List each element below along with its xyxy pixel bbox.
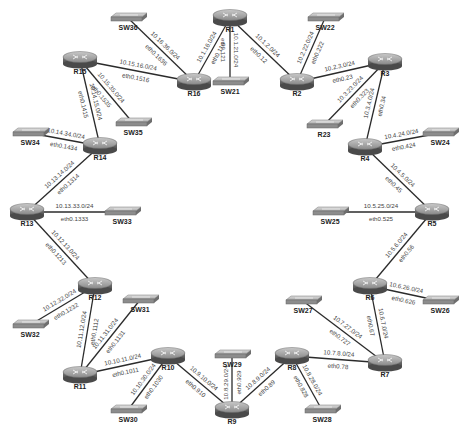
node-sw29[interactable]: SW29 bbox=[215, 350, 251, 368]
interface-label: eth0.929 bbox=[235, 370, 242, 395]
node-label: SW25 bbox=[320, 218, 339, 225]
switch-icon bbox=[13, 128, 49, 136]
router-icon bbox=[10, 204, 44, 221]
switch-icon bbox=[213, 77, 249, 85]
link-label-group: 10.12.13.0/24eth0.1213 bbox=[44, 228, 81, 266]
node-label: R1 bbox=[226, 26, 235, 33]
node-r16[interactable]: R16 bbox=[177, 74, 211, 98]
router-icon bbox=[415, 204, 449, 221]
node-label: SW34 bbox=[20, 139, 39, 146]
router-icon bbox=[213, 10, 247, 27]
subnet-label: 10.14.34.0/24 bbox=[47, 126, 86, 140]
link-label-group: 10.8.9.0/24eth0.89 bbox=[244, 365, 277, 398]
node-sw36[interactable]: SW36 bbox=[111, 13, 147, 31]
switch-icon bbox=[116, 118, 152, 126]
router-icon bbox=[368, 355, 402, 372]
switch-icon bbox=[111, 405, 147, 413]
node-sw34[interactable]: SW34 bbox=[13, 128, 49, 146]
subnet-label: 10.13.33.0/24 bbox=[56, 202, 94, 209]
switch-icon bbox=[423, 296, 459, 304]
node-label: R8 bbox=[288, 364, 297, 371]
node-r10[interactable]: R10 bbox=[151, 348, 185, 372]
node-label: R2 bbox=[293, 90, 302, 97]
node-r15[interactable]: R15 bbox=[63, 52, 97, 76]
node-r23[interactable]: R23 bbox=[307, 120, 343, 138]
link-label-group: 10.8.28.0/24eth0.828 bbox=[292, 363, 324, 399]
node-label: R16 bbox=[188, 90, 201, 97]
link-label-group: 10.4.5.0/24eth0.45 bbox=[384, 162, 417, 195]
interface-label: eth0.222 bbox=[309, 40, 325, 65]
link-label-group: 10.6.7.0/24eth0.67 bbox=[366, 307, 391, 339]
subnet-label: 10.7.8.0/24 bbox=[323, 348, 355, 357]
router-icon bbox=[280, 74, 314, 91]
node-label: R12 bbox=[89, 294, 102, 301]
node-sw24[interactable]: SW24 bbox=[423, 128, 459, 146]
node-label: R13 bbox=[21, 220, 34, 227]
link-label-group: 10.6.26.0/24eth0.626 bbox=[389, 280, 425, 306]
node-r13[interactable]: R13 bbox=[10, 204, 44, 228]
link-label-group: 10.13.14.0/24eth0.1314 bbox=[43, 159, 81, 196]
router-icon bbox=[78, 278, 112, 295]
node-label: R7 bbox=[381, 371, 390, 378]
node-label: R3 bbox=[381, 70, 390, 77]
node-sw33[interactable]: SW33 bbox=[105, 207, 141, 225]
interface-label: eth0.424 bbox=[391, 141, 417, 152]
router-icon bbox=[83, 138, 117, 155]
node-r5[interactable]: R5 bbox=[415, 204, 449, 228]
router-icon bbox=[348, 139, 382, 156]
router-icon bbox=[151, 348, 185, 365]
link-r12-r13 bbox=[27, 212, 95, 286]
network-topology-diagram: 10.1.16.0/24eth0.11610.1.21.0/24eth0.121… bbox=[0, 0, 462, 430]
node-label: SW27 bbox=[293, 307, 312, 314]
node-label: R9 bbox=[228, 418, 237, 425]
node-r2[interactable]: R2 bbox=[280, 74, 314, 98]
interface-label: eth0.67 bbox=[366, 315, 377, 337]
node-label: SW33 bbox=[112, 218, 131, 225]
node-label: R4 bbox=[361, 155, 370, 162]
node-label: SW26 bbox=[430, 307, 449, 314]
node-sw25[interactable]: SW25 bbox=[313, 207, 349, 225]
node-label: SW35 bbox=[123, 129, 142, 136]
link-r5-r6 bbox=[370, 212, 432, 286]
link-label-group: 10.12.32.0/24eth0.1232 bbox=[41, 287, 80, 321]
node-label: R15 bbox=[74, 68, 87, 75]
interface-label: eth0.34 bbox=[376, 95, 388, 117]
router-icon bbox=[275, 348, 309, 365]
link-label-group: 10.16.36.0/24eth0.1636 bbox=[144, 30, 182, 68]
node-label: SW32 bbox=[20, 331, 39, 338]
interface-label: eth0.78 bbox=[327, 362, 349, 371]
node-r6[interactable]: R6 bbox=[353, 278, 387, 302]
node-sw30[interactable]: SW30 bbox=[111, 405, 147, 423]
router-icon bbox=[177, 74, 211, 91]
node-sw32[interactable]: SW32 bbox=[13, 320, 49, 338]
interface-label: eth0.525 bbox=[369, 215, 394, 222]
node-r7[interactable]: R7 bbox=[368, 355, 402, 379]
node-sw22[interactable]: SW22 bbox=[308, 13, 344, 31]
node-sw28[interactable]: SW28 bbox=[305, 405, 341, 423]
switch-icon bbox=[13, 320, 49, 328]
node-label: SW28 bbox=[312, 416, 331, 423]
switch-icon bbox=[423, 128, 459, 136]
link-label-group: 10.1.2.0/24eth0.12 bbox=[249, 32, 282, 65]
link-label-group: 10.9.10.0/24eth0.910 bbox=[184, 364, 220, 399]
interface-label: eth0.121 bbox=[220, 38, 227, 63]
node-r12[interactable]: R12 bbox=[78, 278, 112, 302]
node-sw26[interactable]: SW26 bbox=[423, 296, 459, 314]
node-sw31[interactable]: SW31 bbox=[123, 295, 159, 313]
node-r11[interactable]: R11 bbox=[63, 367, 97, 391]
link-label-group: 10.15.16.0/24eth0.1516 bbox=[119, 58, 158, 84]
node-label: R5 bbox=[428, 220, 437, 227]
node-label: R10 bbox=[162, 364, 175, 371]
switch-icon bbox=[308, 13, 344, 21]
node-sw21[interactable]: SW21 bbox=[213, 77, 249, 95]
switch-icon bbox=[215, 350, 251, 358]
subnet-label: 10.8.29.0/24 bbox=[222, 365, 229, 400]
node-r9[interactable]: R9 bbox=[215, 402, 249, 426]
node-label: SW29 bbox=[222, 361, 241, 368]
link-label-group: 10.2.22.0/24eth0.222 bbox=[295, 30, 325, 65]
node-sw35[interactable]: SW35 bbox=[116, 118, 152, 136]
node-label: R14 bbox=[94, 154, 107, 161]
link-label-group: 10.14.34.0/24eth0.1434 bbox=[47, 126, 86, 152]
switch-icon bbox=[123, 295, 159, 303]
switch-icon bbox=[305, 405, 341, 413]
